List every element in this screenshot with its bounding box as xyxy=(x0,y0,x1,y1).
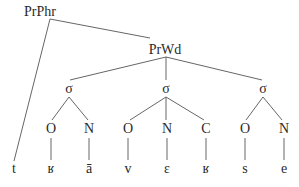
edge-sigma1-o1 xyxy=(52,97,69,120)
node-seg_e2: e xyxy=(281,161,287,176)
prosodic-tree-diagram: PrPhrPrWdσσσONONCONtʁāvɛʁse xyxy=(0,0,299,187)
node-seg_t: t xyxy=(12,161,16,176)
node-seg_e1: ɛ xyxy=(164,161,170,176)
node-seg_r2: ʁ xyxy=(203,161,210,176)
node-c2: C xyxy=(201,121,210,136)
node-o3: O xyxy=(240,121,250,136)
node-n1: N xyxy=(84,121,94,136)
edge-prphr-prwd xyxy=(50,19,150,38)
node-seg_v: v xyxy=(125,161,132,176)
node-sigma2: σ xyxy=(162,81,170,96)
edge-prphr-seg_t xyxy=(14,19,50,161)
edge-prwd-sigma1 xyxy=(70,57,166,80)
edge-sigma2-o2 xyxy=(130,97,166,120)
node-seg_a: ā xyxy=(86,161,93,176)
tree-edges xyxy=(14,19,284,161)
node-sigma3: σ xyxy=(259,81,267,96)
node-o2: O xyxy=(123,121,133,136)
tree-nodes: PrPhrPrWdσσσONONCONtʁāvɛʁse xyxy=(12,4,289,176)
node-seg_s: s xyxy=(242,161,247,176)
edge-sigma3-n3 xyxy=(263,97,282,120)
edge-prwd-sigma3 xyxy=(166,57,262,80)
node-n2: N xyxy=(162,121,172,136)
node-sigma1: σ xyxy=(65,81,73,96)
edge-sigma3-o3 xyxy=(246,97,263,120)
node-prwd: PrWd xyxy=(149,42,182,57)
node-n3: N xyxy=(279,121,289,136)
edge-sigma1-n1 xyxy=(69,97,88,120)
node-seg_r1: ʁ xyxy=(48,161,55,176)
edge-sigma2-c2 xyxy=(166,97,204,120)
node-o1: O xyxy=(46,121,56,136)
node-prphr: PrPhr xyxy=(24,4,56,19)
